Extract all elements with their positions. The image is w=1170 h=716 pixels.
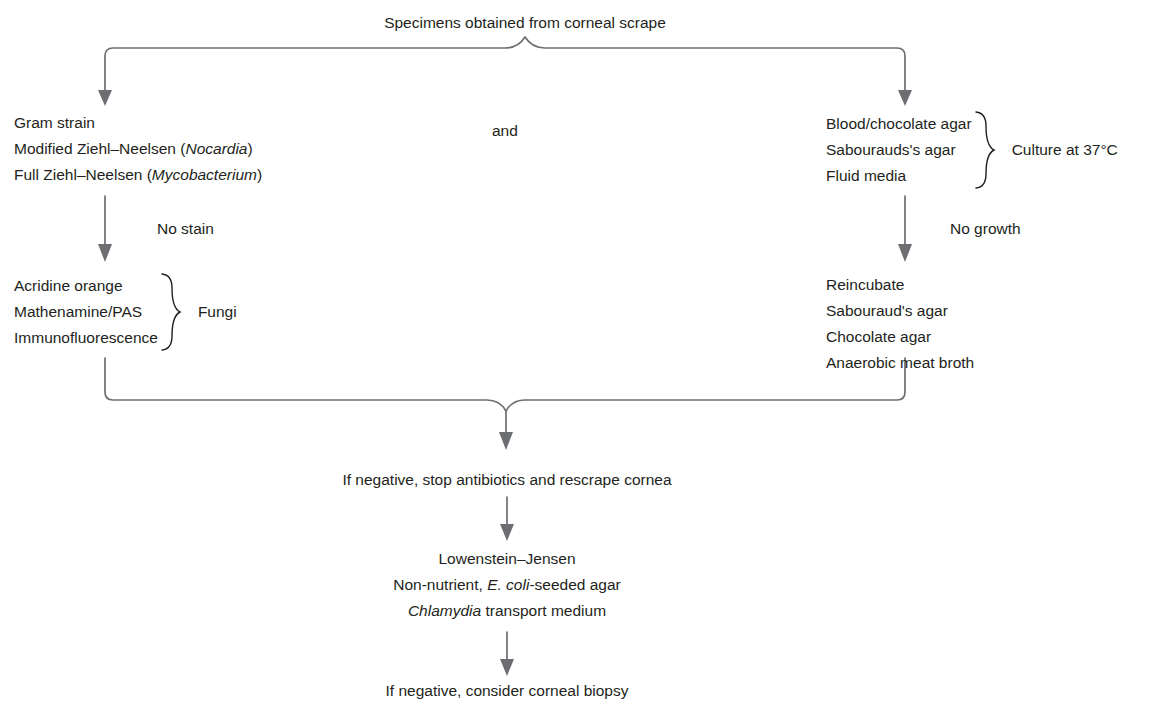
stain-block: Gram strain Modified Ziehl–Neelsen (Noca… (14, 110, 262, 188)
media-line-3: Chlamydia transport medium (0, 598, 1014, 624)
fungi-line-2: Mathenamine/PAS (14, 299, 158, 325)
culture-brace-icon (972, 110, 998, 190)
title-node: Specimens obtained from corneal scrape (0, 10, 1050, 36)
culture-line-2: Sabourauds's agar (826, 137, 972, 163)
media-line-2: Non-nutrient, E. coli-seeded agar (0, 572, 1014, 598)
reincubate-line-4: Anaerobic meat broth (826, 350, 974, 376)
top-right-arrowhead (898, 90, 912, 106)
no-growth-label: No growth (950, 218, 1021, 240)
fungi-block: Acridine orange Mathenamine/PAS Immunofl… (14, 272, 237, 352)
fungi-line-3: Immunofluorescence (14, 325, 158, 351)
biopsy-node: If negative, consider corneal biopsy (0, 678, 1014, 704)
title-text: Specimens obtained from corneal scrape (384, 14, 666, 31)
and-junction-label: and (492, 120, 518, 142)
biopsy-text: If negative, consider corneal biopsy (386, 682, 629, 699)
media-block: Lowenstein–Jensen Non-nutrient, E. coli-… (0, 546, 1014, 624)
culture-block: Blood/chocolate agar Sabourauds's agar F… (826, 110, 1118, 190)
culture-line-3: Fluid media (826, 163, 972, 189)
ecoli-italic: E. coli (487, 576, 529, 593)
reincubate-line-1: Reincubate (826, 272, 974, 298)
no-growth-arrowhead (898, 244, 912, 262)
stain-line-2: Modified Ziehl–Neelsen (Nocardia) (14, 136, 262, 162)
rescrape-node: If negative, stop antibiotics and rescra… (0, 467, 1014, 493)
reincubate-line-3: Chocolate agar (826, 324, 974, 350)
bottom-merge-connector (105, 358, 905, 411)
flowchart-diagram: Specimens obtained from corneal scrape G… (0, 0, 1170, 716)
top-left-arrowhead (98, 90, 112, 106)
rescrape-text: If negative, stop antibiotics and rescra… (342, 471, 671, 488)
biopsy-arrowhead (500, 659, 514, 676)
stain-line-1: Gram strain (14, 110, 262, 136)
fungi-brace-icon (158, 272, 184, 352)
reincubate-block: Reincubate Sabouraud's agar Chocolate ag… (826, 272, 974, 376)
media-line-1: Lowenstein–Jensen (0, 546, 1014, 572)
mycobacterium-italic: Mycobacterium (152, 166, 257, 183)
merge-arrowhead (499, 432, 513, 450)
culture-brace-label: Culture at 37°C (998, 141, 1118, 159)
rescrape-arrowhead (500, 524, 514, 541)
culture-line-1: Blood/chocolate agar (826, 111, 972, 137)
fungi-line-1: Acridine orange (14, 273, 158, 299)
no-stain-label: No stain (157, 218, 214, 240)
reincubate-line-2: Sabouraud's agar (826, 298, 974, 324)
stain-line-3: Full Ziehl–Neelsen (Mycobacterium) (14, 162, 262, 188)
nocardia-italic: Nocardia (185, 140, 247, 157)
no-stain-arrowhead (98, 244, 112, 262)
chlamydia-italic: Chlamydia (408, 602, 481, 619)
top-split-connector (105, 37, 905, 95)
fungi-brace-label: Fungi (184, 303, 237, 321)
